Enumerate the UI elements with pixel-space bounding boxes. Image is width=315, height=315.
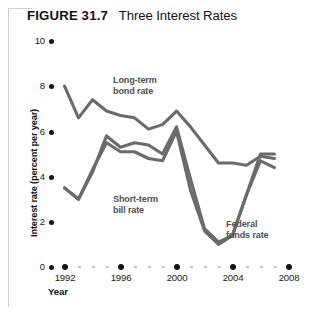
annotation-federal-funds-line1: Federal (226, 219, 257, 229)
annotation-long-term-line1: Long-term (113, 75, 157, 85)
annotation-long-term-bond-rate: Long-term bond rate (113, 75, 157, 97)
annotation-federal-funds-line2: funds rate (226, 230, 268, 240)
chart-plot-area (0, 0, 315, 315)
annotation-long-term-line2: bond rate (113, 86, 153, 96)
annotation-short-term-line2: bill rate (113, 205, 144, 215)
annotation-short-term-bill-rate: Short-term bill rate (113, 194, 158, 216)
series-line-long-term-bond-rate (65, 86, 275, 165)
figure-container: FIGURE 31.7 Three Interest Rates Interes… (0, 0, 315, 315)
annotation-federal-funds-rate: Federal funds rate (226, 219, 268, 241)
annotation-short-term-line1: Short-term (113, 194, 158, 204)
